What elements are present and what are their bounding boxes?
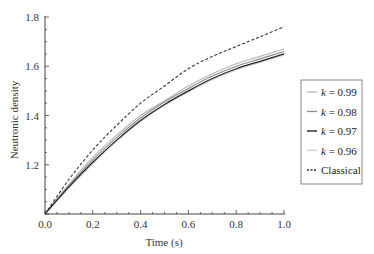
legend-label: Classical: [321, 164, 361, 176]
legend-label: k = 0.96: [321, 145, 357, 157]
legend-label: k = 0.99: [321, 86, 357, 98]
line-chart: 0.00.20.40.60.81.0 1.21.41.61.8 Time (s)…: [0, 0, 374, 254]
series-line-k-0-96: [45, 55, 284, 214]
plot-lines: [45, 27, 284, 214]
legend-label: k = 0.98: [321, 106, 357, 118]
x-ticks: 0.00.20.40.60.81.0: [38, 210, 291, 230]
series-line-k-0-99: [45, 49, 284, 214]
x-tick-label: 1.0: [277, 218, 291, 230]
y-axis-title: Neutronic density: [8, 80, 20, 159]
y-tick-label: 1.4: [25, 110, 39, 122]
x-tick-label: 0.8: [229, 218, 243, 230]
x-tick-label: 0.6: [182, 218, 196, 230]
series-line-k-0-97: [45, 54, 284, 214]
y-tick-label: 1.2: [25, 159, 39, 171]
series-line-classical: [45, 27, 284, 214]
legend-label: k = 0.97: [321, 125, 357, 137]
x-tick-label: 0.0: [38, 218, 52, 230]
x-tick-label: 0.4: [134, 218, 148, 230]
x-tick-label: 0.2: [86, 218, 100, 230]
legend: k = 0.99k = 0.98k = 0.97k = 0.96Classica…: [301, 80, 362, 184]
y-tick-label: 1.6: [25, 60, 39, 72]
series-line-k-0-98: [45, 51, 284, 214]
y-tick-label: 1.8: [25, 11, 39, 23]
x-axis-title: Time (s): [145, 236, 183, 249]
